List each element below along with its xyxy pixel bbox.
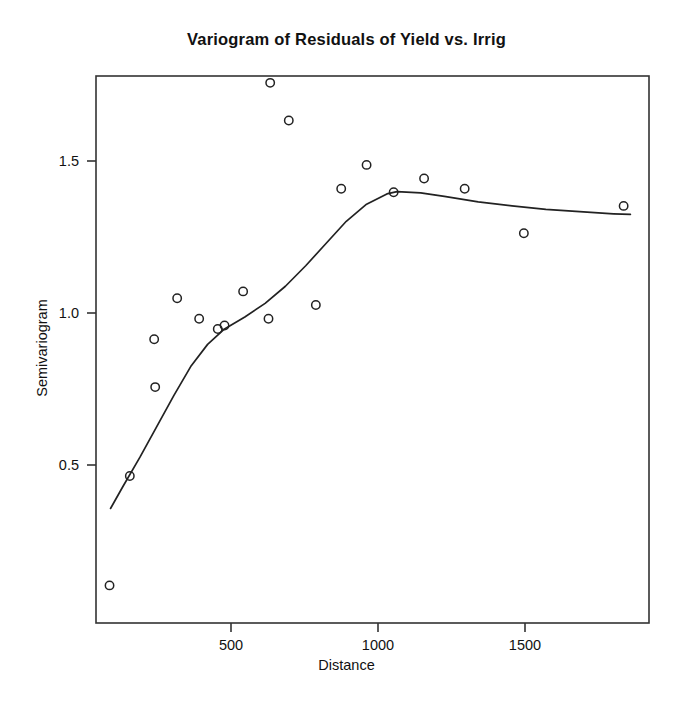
data-point [150, 335, 158, 343]
x-tick-label-1500: 1500 [509, 637, 541, 653]
data-point [619, 202, 627, 210]
y-axis-ticks [87, 161, 96, 465]
fitted-curve-path [111, 192, 631, 509]
data-point [285, 116, 293, 124]
data-point [520, 229, 528, 237]
y-tick-label-1-0: 1.0 [59, 305, 79, 321]
data-point [151, 383, 159, 391]
variogram-figure: Variogram of Residuals of Yield vs. Irri… [0, 0, 693, 705]
data-point [362, 161, 370, 169]
x-axis-ticks [231, 623, 525, 632]
data-point [420, 174, 428, 182]
y-tick-label-0-5: 0.5 [59, 457, 79, 473]
data-point [337, 185, 345, 193]
plot-frame [96, 76, 649, 623]
data-point [312, 301, 320, 309]
y-tick-label-1-5: 1.5 [59, 153, 79, 169]
x-tick-label-1000: 1000 [362, 637, 394, 653]
data-point [195, 315, 203, 323]
data-point [266, 79, 274, 87]
plot-canvas: 500 1000 1500 0.5 1.0 1.5 [0, 0, 693, 705]
data-point [264, 315, 272, 323]
x-tick-label-500: 500 [219, 637, 243, 653]
data-point [239, 287, 247, 295]
data-point [105, 581, 113, 589]
data-point [173, 294, 181, 302]
fitted-curve [111, 192, 631, 509]
data-point-group [105, 79, 628, 590]
x-axis-label: Distance [0, 657, 693, 673]
data-point [460, 185, 468, 193]
y-axis-label: Semivariogram [34, 268, 50, 428]
